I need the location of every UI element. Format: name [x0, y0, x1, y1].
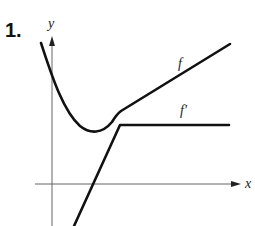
problem-number: 1. — [5, 19, 22, 41]
curve-f-prime-label: f′ — [180, 103, 188, 118]
x-axis: x — [35, 176, 252, 191]
curve-f-prime — [74, 125, 229, 226]
x-axis-label: x — [244, 176, 252, 191]
y-axis-arrow-icon — [49, 36, 55, 46]
curve-f-label: f — [178, 56, 184, 71]
x-axis-arrow-icon — [231, 181, 241, 187]
y-axis: y — [46, 16, 55, 226]
curve-f — [41, 43, 230, 132]
y-axis-label: y — [46, 16, 55, 31]
graph-figure: 1. y x f f′ — [0, 0, 255, 226]
